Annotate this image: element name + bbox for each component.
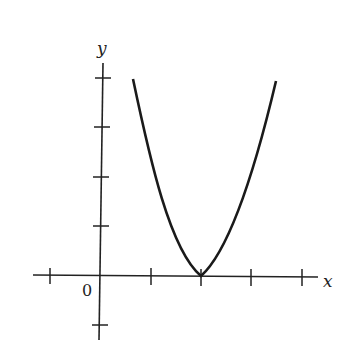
origin-label: 0	[82, 281, 92, 300]
y-axis-label: y	[96, 38, 107, 58]
parabola-curve	[133, 79, 276, 276]
x-axis-label: x	[323, 271, 333, 291]
parabola-graph: y x 0	[0, 0, 362, 361]
x-axis	[33, 275, 318, 277]
y-axis	[99, 63, 103, 340]
